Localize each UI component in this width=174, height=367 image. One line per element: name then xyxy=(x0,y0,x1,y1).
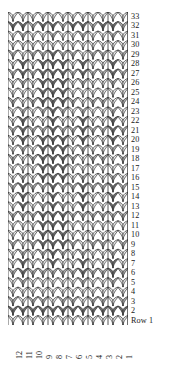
stitch-cell xyxy=(118,202,128,211)
stitch-cell xyxy=(108,183,118,192)
stitch-cell xyxy=(98,287,108,296)
stitch-cell xyxy=(8,259,18,268)
stitch-cell xyxy=(48,21,58,30)
stitch-cell xyxy=(78,202,88,211)
stitch-cell xyxy=(68,78,78,87)
stitch-cell xyxy=(78,278,88,287)
stitch-cell xyxy=(8,21,18,30)
stitch-cell xyxy=(58,154,68,163)
stitch-cell xyxy=(68,230,78,239)
stitch-cell xyxy=(58,268,68,277)
stitch-cell xyxy=(78,116,88,125)
stitch-cell xyxy=(68,59,78,68)
row-number-label: 27 xyxy=(131,69,139,78)
stitch-cell xyxy=(88,154,98,163)
stitch-cell xyxy=(108,268,118,277)
column-number-label: 10 xyxy=(28,326,38,360)
stitch-cell xyxy=(78,40,88,49)
column-number-axis: 121110987654321 xyxy=(8,326,128,364)
stitch-cell xyxy=(118,126,128,135)
stitch-cell xyxy=(78,145,88,154)
stitch-cell xyxy=(68,21,78,30)
stitch-cell xyxy=(118,145,128,154)
stitch-cell xyxy=(108,59,118,68)
stitch-cell xyxy=(38,173,48,182)
row-number-label: 17 xyxy=(131,164,139,173)
stitch-cell xyxy=(98,12,108,21)
stitch-cell xyxy=(38,230,48,239)
stitch-cell xyxy=(88,306,98,315)
stitch-cell xyxy=(48,50,58,59)
stitch-cell xyxy=(98,183,108,192)
stitch-cell xyxy=(58,297,68,306)
stitch-cell xyxy=(28,78,38,87)
row-number-label: 22 xyxy=(131,116,139,125)
stitch-cell xyxy=(18,12,28,21)
stitch-cell xyxy=(78,240,88,249)
stitch-cell xyxy=(48,40,58,49)
stitch-cell xyxy=(38,116,48,125)
stitch-cell xyxy=(88,97,98,106)
stitch-cell xyxy=(28,116,38,125)
stitch-cell xyxy=(28,297,38,306)
stitch-cell xyxy=(38,164,48,173)
stitch-cell xyxy=(88,116,98,125)
stitch-cell xyxy=(98,88,108,97)
stitch-cell xyxy=(28,306,38,315)
stitch-cell xyxy=(78,183,88,192)
stitch-cell xyxy=(108,316,118,325)
column-number-label: 4 xyxy=(88,326,98,360)
stitch-cell xyxy=(8,183,18,192)
stitch-cell xyxy=(108,164,118,173)
stitch-cell xyxy=(88,268,98,277)
stitch-cell xyxy=(18,145,28,154)
stitch-cell xyxy=(48,59,58,68)
stitch-cell xyxy=(18,78,28,87)
stitch-cell xyxy=(88,12,98,21)
stitch-cell xyxy=(98,278,108,287)
stitch-cell xyxy=(78,316,88,325)
stitch-cell xyxy=(48,249,58,258)
stitch-cell xyxy=(78,249,88,258)
stitch-cell xyxy=(98,126,108,135)
stitch-cell xyxy=(68,287,78,296)
stitch-cell xyxy=(68,50,78,59)
knitting-stitch-chart: 3332313029282726252423222120191817161514… xyxy=(0,0,174,367)
stitch-cell xyxy=(18,287,28,296)
stitch-cell xyxy=(118,88,128,97)
stitch-cell xyxy=(28,221,38,230)
stitch-cell xyxy=(8,221,18,230)
stitch-cell xyxy=(118,192,128,201)
stitch-cell xyxy=(78,268,88,277)
stitch-cell xyxy=(18,230,28,239)
stitch-cell xyxy=(68,69,78,78)
stitch-cell xyxy=(38,183,48,192)
stitch-cell xyxy=(58,287,68,296)
stitch-cell xyxy=(88,107,98,116)
stitch-cell xyxy=(28,192,38,201)
stitch-cell xyxy=(108,259,118,268)
stitch-cell xyxy=(8,40,18,49)
stitch-cell xyxy=(58,59,68,68)
stitch-cell xyxy=(38,59,48,68)
stitch-cell xyxy=(38,249,48,258)
stitch-cell xyxy=(38,97,48,106)
stitch-cell xyxy=(108,69,118,78)
row-number-label: 4 xyxy=(131,287,135,296)
stitch-cell xyxy=(118,211,128,220)
stitch-cell xyxy=(28,88,38,97)
stitch-cell xyxy=(108,135,118,144)
stitch-cell xyxy=(8,287,18,296)
stitch-cell xyxy=(18,259,28,268)
stitch-cell xyxy=(98,116,108,125)
stitch-cell xyxy=(58,202,68,211)
row-number-label: 19 xyxy=(131,145,139,154)
stitch-cell xyxy=(58,259,68,268)
stitch-cell xyxy=(38,78,48,87)
stitch-cell xyxy=(58,69,68,78)
stitch-cell xyxy=(98,97,108,106)
row-number-label: 14 xyxy=(131,192,139,201)
stitch-cell xyxy=(98,249,108,258)
stitch-cell xyxy=(118,50,128,59)
stitch-cell xyxy=(98,154,108,163)
